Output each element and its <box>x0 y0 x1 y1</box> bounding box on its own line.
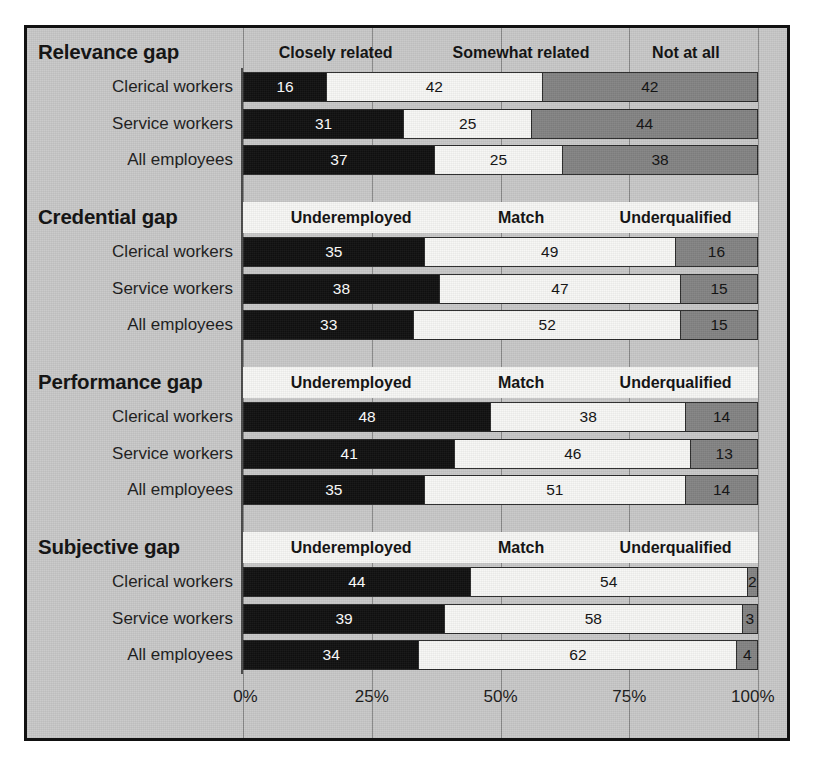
bar-segment: 25 <box>403 110 531 138</box>
row-label: Service workers <box>27 436 233 472</box>
section-rows: Clerical workers483814Service workers414… <box>27 399 787 509</box>
table-row: Clerical workers164242 <box>27 69 787 105</box>
section-header: Subjective gapUnderemployedMatchUnderqua… <box>27 530 787 564</box>
bar-value-label: 44 <box>636 116 653 132</box>
bar-value-label: 42 <box>426 79 443 95</box>
table-row: All employees34624 <box>27 637 787 673</box>
row-label: All employees <box>27 142 233 178</box>
bar-segment: 58 <box>444 605 742 633</box>
bar-value-label: 3 <box>745 611 754 627</box>
bar-value-label: 15 <box>710 317 727 333</box>
bar-segment: 14 <box>685 476 757 504</box>
bar-segment: 42 <box>542 73 757 101</box>
bar-segment: 38 <box>562 146 757 174</box>
section-title: Credential gap <box>38 200 178 234</box>
chart-plate: Relevance gapClosely relatedSomewhat rel… <box>27 28 787 738</box>
table-row: Clerical workers354916 <box>27 234 787 270</box>
stacked-bar: 384715 <box>243 274 758 304</box>
stacked-bar: 372538 <box>243 145 758 175</box>
bar-value-label: 49 <box>541 244 558 260</box>
stacked-bar: 483814 <box>243 402 758 432</box>
section-header: Performance gapUnderemployedMatchUnderqu… <box>27 365 787 399</box>
section-title: Relevance gap <box>38 35 179 69</box>
legend-label: Underqualified <box>593 367 758 398</box>
bar-segment: 62 <box>418 641 736 669</box>
bar-value-label: 34 <box>323 647 340 663</box>
bar-value-label: 51 <box>546 482 563 498</box>
section-header: Relevance gapClosely relatedSomewhat rel… <box>27 35 787 69</box>
bar-segment: 2 <box>747 568 757 596</box>
section-title: Performance gap <box>38 365 202 399</box>
chart-section: Relevance gapClosely relatedSomewhat rel… <box>27 35 787 179</box>
table-row: All employees335215 <box>27 307 787 343</box>
bar-value-label: 48 <box>358 409 375 425</box>
bar-value-label: 44 <box>348 574 365 590</box>
table-row: Clerical workers44542 <box>27 564 787 600</box>
bar-segment: 31 <box>244 110 403 138</box>
bar-value-label: 39 <box>335 611 352 627</box>
row-label: Clerical workers <box>27 564 233 600</box>
section-header: Credential gapUnderemployedMatchUnderqua… <box>27 200 787 234</box>
legend-label: Underqualified <box>593 202 758 233</box>
row-label: All employees <box>27 472 233 508</box>
chart-section: Subjective gapUnderemployedMatchUnderqua… <box>27 530 787 674</box>
legend-band: UnderemployedMatchUnderqualified <box>243 202 758 233</box>
bar-value-label: 25 <box>459 116 476 132</box>
bar-segment: 38 <box>244 275 439 303</box>
bar-value-label: 42 <box>641 79 658 95</box>
row-label: Clerical workers <box>27 69 233 105</box>
bar-value-label: 38 <box>580 409 597 425</box>
bar-value-label: 35 <box>325 244 342 260</box>
bar-value-label: 25 <box>490 152 507 168</box>
legend-label: Closely related <box>243 37 428 68</box>
stacked-bar: 39583 <box>243 604 758 634</box>
stacked-bar: 335215 <box>243 310 758 340</box>
stacked-bar: 355114 <box>243 475 758 505</box>
bar-segment: 52 <box>413 311 680 339</box>
bar-segment: 15 <box>680 275 757 303</box>
section-rows: Clerical workers44542Service workers3958… <box>27 564 787 674</box>
bar-segment: 54 <box>470 568 747 596</box>
chart-section: Credential gapUnderemployedMatchUnderqua… <box>27 200 787 344</box>
section-rows: Clerical workers164242Service workers312… <box>27 69 787 179</box>
bar-value-label: 35 <box>325 482 342 498</box>
bar-value-label: 33 <box>320 317 337 333</box>
bar-value-label: 15 <box>710 281 727 297</box>
table-row: Service workers384715 <box>27 271 787 307</box>
bar-segment: 25 <box>434 146 562 174</box>
bar-segment: 44 <box>531 110 757 138</box>
table-row: All employees372538 <box>27 142 787 178</box>
bar-segment: 38 <box>490 403 685 431</box>
bar-value-label: 31 <box>315 116 332 132</box>
row-label: All employees <box>27 637 233 673</box>
legend-band: UnderemployedMatchUnderqualified <box>243 367 758 398</box>
bar-value-label: 14 <box>713 482 730 498</box>
bar-value-label: 38 <box>333 281 350 297</box>
bar-segment: 37 <box>244 146 434 174</box>
stacked-bar: 312544 <box>243 109 758 139</box>
bar-segment: 13 <box>690 440 757 468</box>
legend-label: Underemployed <box>253 367 449 398</box>
legend-label: Underemployed <box>253 202 449 233</box>
table-row: Clerical workers483814 <box>27 399 787 435</box>
table-row: All employees355114 <box>27 472 787 508</box>
bar-segment: 51 <box>424 476 686 504</box>
row-label: Clerical workers <box>27 399 233 435</box>
bar-segment: 48 <box>244 403 490 431</box>
stacked-bar: 44542 <box>243 567 758 597</box>
bar-segment: 42 <box>326 73 541 101</box>
row-label: Service workers <box>27 271 233 307</box>
table-row: Service workers414613 <box>27 436 787 472</box>
row-label: Clerical workers <box>27 234 233 270</box>
bar-segment: 16 <box>675 238 757 266</box>
bar-value-label: 52 <box>539 317 556 333</box>
bar-segment: 3 <box>742 605 757 633</box>
legend-band: Closely relatedSomewhat relatedNot at al… <box>243 37 758 68</box>
bar-value-label: 58 <box>585 611 602 627</box>
bar-value-label: 47 <box>551 281 568 297</box>
legend-label: Match <box>449 367 593 398</box>
bar-segment: 15 <box>680 311 757 339</box>
bar-value-label: 13 <box>716 446 733 462</box>
row-label: Service workers <box>27 106 233 142</box>
bar-value-label: 16 <box>276 79 293 95</box>
